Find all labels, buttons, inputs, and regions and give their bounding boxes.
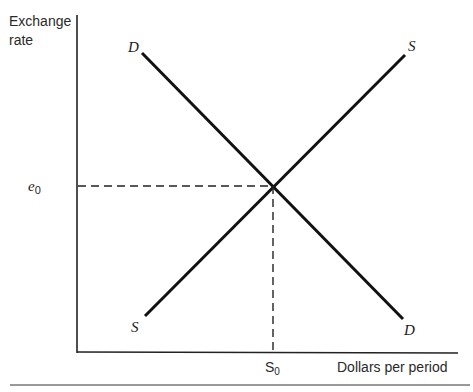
supply-label-bottom: S xyxy=(131,319,139,335)
supply-label-top: S xyxy=(408,38,416,54)
x-axis xyxy=(77,352,458,353)
x-axis-label: Dollars per period xyxy=(337,359,448,375)
demand-label-top: D xyxy=(127,39,139,55)
equilibrium-quantity-label: S0 xyxy=(265,359,280,377)
demand-label-bottom: D xyxy=(403,322,415,338)
exchange-rate-diagram: Exchange rate D D S S e0 S0 Dollars per … xyxy=(0,0,473,392)
equilibrium-rate-label: e0 xyxy=(28,178,41,196)
y-axis-label-line1: Exchange xyxy=(9,13,71,29)
y-axis-label-line2: rate xyxy=(9,32,33,48)
